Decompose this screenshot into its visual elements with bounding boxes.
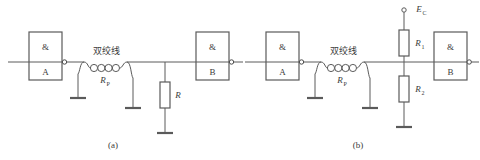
panel-b-coil-turn-4: [349, 64, 356, 71]
panel-b-resistor-r2: [399, 76, 409, 102]
panel-b-gate-a-symbol: &: [279, 42, 286, 52]
panel-b-coil-lead-left: [321, 62, 328, 68]
panel-a-gate-b-output-bubble: [229, 60, 233, 64]
panel-a-terminator-label: R: [174, 90, 181, 100]
panel-a-caption: (a): [108, 140, 118, 150]
panel-b-gate-a-output-bubble: [299, 60, 303, 64]
panel-a-coil-turn-4: [112, 64, 119, 71]
panel-a-ground-right-wire: [127, 62, 133, 108]
panel-b-resistor-r2-sub: 2: [422, 90, 425, 96]
panel-b-coil-resistor-label: R: [336, 75, 343, 85]
panel-b-gate-b-symbol: &: [447, 42, 454, 52]
panel-a-coil-lead-right: [120, 62, 128, 68]
panel-b-coil-turn-2: [335, 64, 342, 71]
panel-b-twisted-pair-label: 双绞线: [330, 45, 357, 56]
panel-a-coil-turn-3: [105, 64, 112, 71]
panel-a-twisted-pair-label: 双绞线: [93, 45, 120, 56]
panel-b-ground-left-wire: [315, 62, 321, 98]
panel-b-gate-b-label: B: [447, 67, 453, 77]
panel-a-coil-lead-left: [84, 62, 91, 68]
panel-b-coil-turn-1: [327, 64, 334, 71]
panel-a-gate-a-output-bubble: [62, 60, 66, 64]
panel-b-coil-turn-3: [342, 64, 349, 71]
panel-a-coil-resistor-label: R: [99, 75, 106, 85]
panel-b-coil-resistor-sub: P: [344, 81, 348, 87]
panel-a-coil-turn-2: [98, 64, 105, 71]
panel-a-gate-b-symbol: &: [209, 42, 216, 52]
panel-b-caption: (b): [353, 140, 364, 150]
panel-a-gate-a-label: A: [42, 67, 49, 77]
panel-a-gate-a-symbol: &: [42, 42, 49, 52]
panel-a-coil-turn-1: [90, 64, 97, 71]
panel-b-gate-a-label: A: [279, 67, 286, 77]
panel-b-resistor-r1-label: R: [414, 38, 421, 48]
panel-a: & A 双绞线 R P: [8, 32, 243, 150]
panel-b-resistor-r2-label: R: [414, 84, 421, 94]
panel-b-resistor-r1: [399, 30, 409, 56]
panel-a-ground-left-wire: [78, 62, 84, 98]
panel-a-gate-b-label: B: [209, 67, 215, 77]
panel-a-coil-resistor-sub: P: [107, 81, 111, 87]
panel-b: & A 双绞线 R P E C: [245, 4, 479, 150]
panel-b-supply-terminal: [402, 8, 406, 12]
panel-b-gate-b-output-bubble: [467, 60, 471, 64]
circuit-diagram-svg: & A 双绞线 R P: [0, 0, 480, 160]
panel-b-supply-label: E: [415, 4, 422, 14]
panel-b-supply-sub: C: [423, 10, 427, 16]
figure-root: & A 双绞线 R P: [0, 0, 480, 160]
panel-b-coil-lead-right: [357, 62, 365, 68]
panel-a-terminator-resistor: [160, 82, 170, 108]
panel-b-ground-right-wire: [364, 62, 370, 108]
panel-b-resistor-r1-sub: 1: [422, 44, 425, 50]
